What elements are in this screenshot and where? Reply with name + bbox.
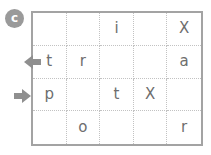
grid-cell-r1-c4[interactable] (134, 13, 168, 46)
grid-cell-r4-c5[interactable]: r (167, 111, 201, 144)
grid-cell-r4-c1[interactable] (33, 111, 67, 144)
grid-cell-r3-c4[interactable]: X (134, 79, 168, 112)
step-badge: c (5, 9, 24, 28)
grid-cell-r1-c3[interactable]: i (100, 13, 134, 46)
arrow-left-icon[interactable] (24, 55, 33, 69)
puzzle-grid: iXtraptXor (31, 11, 203, 146)
arrow-right-stem (14, 93, 22, 99)
grid-cell-r1-c5[interactable]: X (167, 13, 201, 46)
grid-cell-r4-c3[interactable] (100, 111, 134, 144)
grid-cell-r3-c1[interactable]: p (33, 79, 67, 112)
arrow-right-icon[interactable] (22, 89, 31, 103)
grid-cell-r3-c3[interactable]: t (100, 79, 134, 112)
grid-cells-container: iXtraptXor (33, 13, 201, 144)
grid-cell-r3-c2[interactable] (67, 79, 101, 112)
grid-cell-r2-c4[interactable] (134, 46, 168, 79)
grid-cell-r2-c3[interactable] (100, 46, 134, 79)
grid-cell-r2-c5[interactable]: a (167, 46, 201, 79)
arrow-left-stem (33, 59, 41, 65)
grid-cell-r2-c2[interactable]: r (67, 46, 101, 79)
grid-cell-r3-c5[interactable] (167, 79, 201, 112)
grid-cell-r4-c4[interactable] (134, 111, 168, 144)
grid-cell-r1-c1[interactable] (33, 13, 67, 46)
grid-cell-r1-c2[interactable] (67, 13, 101, 46)
grid-cell-r4-c2[interactable]: o (67, 111, 101, 144)
